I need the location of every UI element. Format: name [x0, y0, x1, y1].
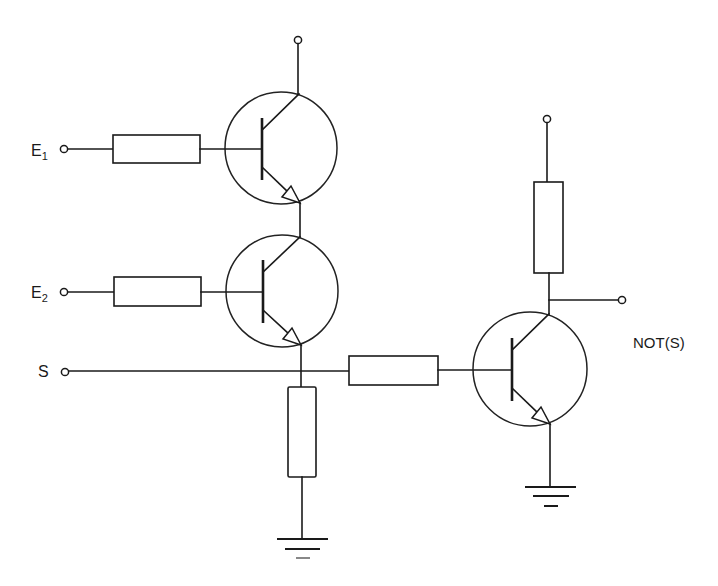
- terminal-s[interactable]: [61, 368, 68, 375]
- terminal-vcc2[interactable]: [543, 115, 550, 122]
- pulldown: [277, 387, 328, 558]
- resistor-r3: [288, 387, 316, 477]
- resistor-r5: [534, 182, 563, 273]
- terminal-not-s[interactable]: [618, 296, 625, 303]
- transistor-t2: [226, 235, 338, 347]
- ground-icon: [525, 487, 576, 506]
- circuit-schematic: E1 E2 S: [0, 0, 718, 586]
- terminal-e2[interactable]: [60, 288, 67, 295]
- output-not-s: NOT(S): [549, 296, 685, 351]
- label-not-s: NOT(S): [633, 334, 685, 351]
- transistor-t1: [225, 92, 337, 204]
- transistor-t1-collector: [262, 94, 299, 130]
- transistor-t1-body: [225, 92, 337, 204]
- label-s: S: [38, 363, 49, 380]
- transistor-t2-emitter: [263, 310, 288, 333]
- transistor-t3-collector: [512, 314, 549, 350]
- transistor-t1-emitter: [262, 167, 287, 191]
- resistor-r2: [114, 277, 201, 306]
- output-s: S: [38, 363, 349, 380]
- terminal-vcc1[interactable]: [294, 36, 301, 43]
- transistor-t2-body: [226, 235, 338, 347]
- terminal-e1[interactable]: [60, 145, 67, 152]
- transistor-t3-body: [473, 312, 587, 426]
- resistor-r4: [349, 356, 438, 385]
- input-e1: E1: [31, 135, 262, 163]
- transistor-t2-collector: [263, 237, 300, 272]
- input-e2: E2: [31, 277, 263, 306]
- ground-icon: [277, 539, 328, 558]
- transistor-t3-emitter: [512, 388, 537, 412]
- resistor-r1: [113, 135, 200, 163]
- label-e2: E2: [31, 284, 48, 304]
- label-e1: E1: [31, 142, 48, 162]
- transistor-t3: [473, 312, 587, 426]
